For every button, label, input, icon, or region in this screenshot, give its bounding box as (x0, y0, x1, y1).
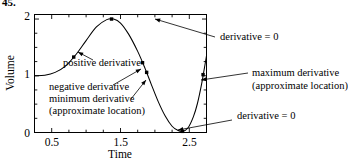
arrowhead-positive-derivative (78, 52, 84, 56)
data-point-marker (145, 71, 148, 74)
y-tick-label-1: 1 (24, 68, 30, 80)
annotation-maximum-derivative: maximum derivative (252, 67, 340, 78)
y-tick-label-2: 2 (24, 10, 30, 22)
annotation-positive-derivative: positive derivative (63, 57, 141, 68)
leader-line-maximum-derivative (201, 73, 248, 80)
annotation-maximum-derivative-sub: (approximate location) (252, 80, 348, 92)
annotation-derivative-zero-top: derivative = 0 (220, 31, 278, 42)
annotation-derivative-zero-bottom: derivative = 0 (237, 110, 295, 121)
y-axis-title: Volume (4, 55, 16, 91)
x-tick-labels: 0.5 1.5 2.5 (45, 136, 197, 148)
annotation-minimum-derivative: minimum derivative (49, 93, 135, 104)
y-tick-label-0: 0 (24, 127, 30, 139)
arrowhead-negative-derivative (135, 69, 141, 73)
y-tick-labels: 0 1 2 (24, 10, 30, 139)
x-axis-title: Time (108, 148, 132, 160)
volume-time-chart: 0 1 2 0.5 1.5 2.5 Volume Time positive d… (0, 0, 348, 160)
arrowhead-derivative-zero-top (155, 19, 161, 23)
annotation-negative-derivative: negative derivative (49, 81, 130, 92)
data-point-marker (110, 17, 113, 20)
data-point-marker (141, 61, 144, 64)
data-point-marker (201, 73, 204, 76)
x-tick-label-2: 2.5 (182, 136, 197, 148)
x-tick-label-0: 0.5 (45, 136, 60, 148)
x-tick-label-1: 1.5 (114, 136, 129, 148)
leader-line-derivative-zero-bottom (178, 120, 232, 130)
figure-root: 45. 0 1 2 0.5 1.5 2.5 Volume Time (0, 0, 348, 160)
annotation-labels: positive derivative negative derivative … (49, 31, 348, 121)
annotation-minimum-derivative-sub: (approximate location) (49, 105, 145, 117)
